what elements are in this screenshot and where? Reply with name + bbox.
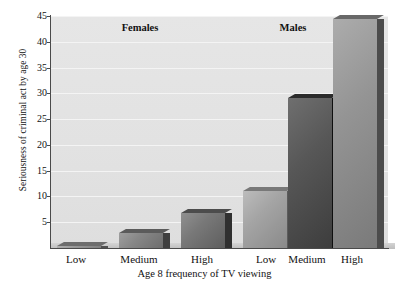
bar-face	[288, 98, 332, 248]
y-axis-tick-mark	[47, 145, 51, 146]
bar-face	[57, 246, 101, 248]
y-axis-tick-label: 30	[20, 88, 47, 98]
bar-males-medium	[288, 98, 332, 248]
y-axis-tick-label: 5	[20, 217, 47, 227]
y-axis-tick-label: 15	[20, 166, 47, 176]
y-axis-tick-mark	[47, 119, 51, 120]
x-axis-line	[50, 248, 389, 249]
bar-face	[243, 191, 287, 248]
y-axis-tick-mark	[47, 196, 51, 197]
bar-top	[333, 15, 384, 19]
y-axis-tick-label: 25	[20, 114, 47, 124]
bar-chart: Seriousness of criminal act by age 30 51…	[0, 0, 409, 298]
x-axis-title: Age 8 frequency of TV viewing	[0, 268, 409, 279]
bar-top	[119, 229, 170, 233]
y-axis-line	[50, 15, 51, 249]
bar-side	[225, 213, 232, 248]
y-axis-tick-mark	[47, 42, 51, 43]
y-axis-tick-mark	[47, 68, 51, 69]
bar-top	[57, 242, 108, 246]
bar-females-medium	[119, 233, 163, 248]
y-axis-tick-label: 20	[20, 140, 47, 150]
bar-face	[181, 213, 225, 248]
y-axis-tick-mark	[47, 222, 51, 223]
bar-top	[243, 187, 294, 191]
y-axis-tick-label: 45	[20, 11, 47, 21]
y-axis-tick-mark	[47, 171, 51, 172]
y-axis-tick-mark	[47, 93, 51, 94]
y-axis-tick-label: 40	[20, 37, 47, 47]
y-axis-tick-mark	[47, 16, 51, 17]
bar-face	[119, 233, 163, 248]
bar-top	[181, 209, 232, 213]
bar-males-low	[243, 191, 287, 248]
y-axis-tick-label: 35	[20, 63, 47, 73]
bar-side	[377, 19, 384, 248]
group-label-females: Females	[95, 22, 185, 33]
bar-top	[288, 94, 339, 98]
y-axis-tick-label: 10	[20, 191, 47, 201]
bar-side	[163, 233, 170, 248]
group-label-males: Males	[248, 22, 338, 33]
x-axis-tick-label: High	[312, 253, 392, 265]
bar-males-high	[333, 19, 377, 248]
bar-side	[101, 246, 108, 248]
bar-females-high	[181, 213, 225, 248]
bar-face	[333, 19, 377, 248]
bar-females-low	[57, 246, 101, 248]
